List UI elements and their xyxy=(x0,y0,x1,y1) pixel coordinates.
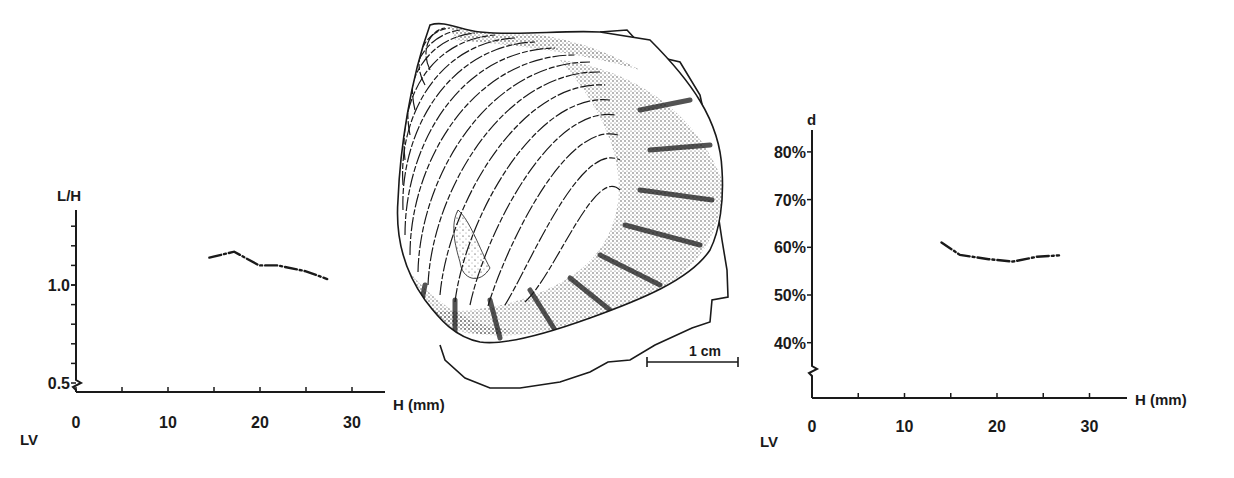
y-tick-label: 80% xyxy=(774,144,806,161)
left-chart-axes: 01020301.00.5 xyxy=(48,210,385,431)
data-line xyxy=(209,252,327,279)
chart-length-height-ratio: 01020301.00.5 L/H H (mm) LV xyxy=(20,187,445,448)
right-corner-label: LV xyxy=(760,433,778,450)
x-tick-label: 20 xyxy=(251,414,269,431)
x-tick-label: 10 xyxy=(159,414,177,431)
y-tick-label: 1.0 xyxy=(48,277,70,294)
right-y-axis-label: d xyxy=(807,111,816,128)
left-chart-series-line xyxy=(209,252,327,279)
x-tick-label: 30 xyxy=(1081,418,1099,435)
x-tick-label: 0 xyxy=(72,414,81,431)
scientific-figure: 01020301.00.5 L/H H (mm) LV xyxy=(0,0,1234,478)
left-corner-label: LV xyxy=(20,431,38,448)
x-tick-label: 10 xyxy=(896,418,914,435)
y-axis-line xyxy=(809,130,817,398)
right-chart-axes: 010203080%70%60%50%40% xyxy=(774,130,1127,435)
right-x-axis-label: H (mm) xyxy=(1135,391,1187,408)
y-axis-line xyxy=(73,210,81,392)
y-tick-label: 40% xyxy=(774,335,806,352)
y-tick-label: 60% xyxy=(774,239,806,256)
y-tick-label: 50% xyxy=(774,287,806,304)
x-tick-label: 30 xyxy=(343,414,361,431)
scale-bar-label: 1 cm xyxy=(689,343,721,359)
x-tick-label: 20 xyxy=(988,418,1006,435)
scale-bar: 1 cm xyxy=(647,343,738,367)
data-line xyxy=(942,243,1060,262)
left-x-axis-label: H (mm) xyxy=(393,396,445,413)
left-y-axis-label: L/H xyxy=(57,187,81,204)
shell-illustration xyxy=(397,24,728,388)
right-chart-series-line xyxy=(942,243,1060,262)
chart-depth-ratio: 010203080%70%60%50%40% d H (mm) LV xyxy=(760,111,1187,450)
x-tick-label: 0 xyxy=(808,418,817,435)
y-tick-label: 70% xyxy=(774,192,806,209)
y-tick-label: 0.5 xyxy=(48,375,70,392)
